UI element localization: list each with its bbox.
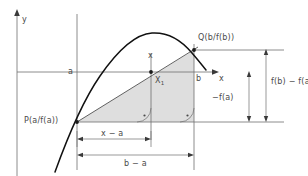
point-x1-label: X1: [155, 77, 164, 85]
dimension-label-x-minus-a: x − a: [101, 130, 123, 138]
tick-label-x: x: [148, 52, 153, 60]
point-x1-letter: X: [155, 76, 161, 85]
dimension-b-minus-a: [77, 153, 194, 157]
point-p-marker: [75, 120, 79, 124]
point-x1-marker: [149, 70, 153, 74]
x-axis-arrowhead: [212, 69, 219, 75]
dimension-label-f-b-minus-f-a: f(b) − f(a): [271, 78, 308, 86]
y-axis-label: y: [22, 16, 27, 24]
point-q-marker: [192, 48, 196, 52]
tick-label-b: b: [196, 75, 201, 83]
point-x1-subscript: 1: [161, 80, 165, 86]
x-axis-label: x: [219, 75, 224, 83]
diagram-svg: [0, 0, 308, 176]
dimension-label-neg-f-a: −f(a): [212, 94, 234, 102]
dimension-label-b-minus-a: b − a: [124, 160, 147, 168]
dimension-f-b-minus-f-a: [264, 49, 268, 122]
point-q-label: Q(b/f(b)): [198, 34, 234, 42]
figure-canvas: y x a b x P(a/f(a)) Q(b/f(b)) X1 x − a b…: [0, 0, 308, 176]
dimension-neg-f-a: [247, 71, 251, 122]
tick-label-a: a: [68, 68, 73, 76]
y-axis-arrowhead: [14, 9, 20, 16]
point-p-label: P(a/f(a)): [24, 117, 58, 125]
